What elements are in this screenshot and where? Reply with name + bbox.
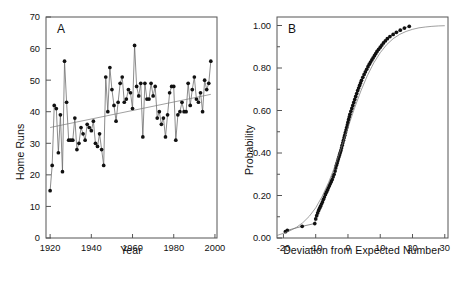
data-point (83, 138, 87, 142)
data-point (184, 110, 188, 114)
data-point (157, 110, 161, 114)
data-point (63, 59, 67, 63)
data-point (141, 135, 145, 139)
y-tick-label: 0.80 (253, 63, 271, 73)
data-point (54, 107, 58, 111)
data-point (118, 81, 122, 85)
data-point (81, 132, 85, 136)
data-point (52, 104, 56, 108)
data-point (98, 132, 102, 136)
data-point (110, 88, 114, 92)
data-point (205, 88, 209, 92)
data-point (164, 135, 168, 139)
data-point (75, 148, 79, 152)
data-point (73, 116, 77, 120)
panel-b: -20-1001020300.000.200.400.600.801.00B (231, 0, 463, 260)
data-point (65, 100, 69, 104)
y-tick-label: 70 (30, 12, 40, 22)
data-point (129, 91, 133, 95)
panel-a-yaxis-title: Home Runs (14, 124, 26, 180)
data-point (106, 110, 110, 114)
y-tick-label: 0.20 (253, 191, 271, 201)
figure-container: 19201940196019802000010203040506070A Yea… (0, 0, 463, 288)
data-point (180, 100, 184, 104)
y-tick-label: 60 (30, 44, 40, 54)
panel-a-xaxis-title: Year (45, 244, 217, 256)
y-tick-label: 10 (30, 202, 40, 212)
data-point (168, 91, 172, 95)
data-point (395, 30, 399, 34)
data-point (104, 75, 108, 79)
data-point (114, 119, 118, 123)
data-point (398, 28, 402, 32)
data-point (57, 151, 61, 155)
data-point (102, 164, 106, 168)
data-point (92, 119, 96, 123)
data-point (151, 94, 155, 98)
data-point (203, 78, 207, 82)
data-point (188, 104, 192, 108)
data-point (201, 110, 205, 114)
data-point (89, 129, 93, 133)
panel-letter: A (57, 22, 65, 36)
data-point (199, 91, 203, 95)
y-tick-label: 0.00 (253, 233, 271, 243)
data-point (166, 113, 170, 117)
data-point (77, 141, 81, 145)
data-point (313, 222, 317, 226)
data-point (120, 75, 124, 79)
data-point (186, 81, 190, 85)
data-point (174, 138, 178, 142)
data-point (116, 100, 120, 104)
plot-frame (46, 17, 217, 238)
y-tick-label: 20 (30, 170, 40, 180)
y-tick-label: 0.60 (253, 106, 271, 116)
data-point (314, 217, 318, 221)
data-point (190, 88, 194, 92)
data-point (332, 172, 336, 176)
data-point (300, 224, 304, 228)
data-point (172, 85, 176, 89)
data-point (100, 148, 104, 152)
data-point (96, 145, 100, 149)
plot-frame (277, 17, 448, 238)
data-point (391, 33, 395, 37)
data-point (139, 81, 143, 85)
data-point (79, 126, 83, 130)
data-point (135, 85, 139, 89)
y-tick-label: 50 (30, 76, 40, 86)
data-point (207, 81, 211, 85)
data-point (149, 81, 153, 85)
data-point (87, 126, 91, 130)
data-point (388, 35, 392, 39)
data-point (127, 88, 131, 92)
data-point (162, 116, 166, 120)
data-point (50, 164, 54, 168)
data-point (209, 59, 213, 63)
data-point (133, 44, 137, 48)
y-tick-label: 40 (30, 107, 40, 117)
data-point (61, 170, 65, 174)
data-point (197, 100, 201, 104)
panel-a: 19201940196019802000010203040506070A (0, 0, 232, 260)
data-point (155, 116, 159, 120)
y-tick-label: 0 (35, 233, 40, 243)
data-point (71, 138, 75, 142)
data-point (85, 122, 89, 126)
data-point (94, 141, 98, 145)
y-tick-label: 1.00 (253, 21, 271, 31)
data-point (137, 94, 141, 98)
data-point (178, 110, 182, 114)
data-point (112, 104, 116, 108)
data-point (403, 26, 407, 30)
panel-b-yaxis-title: Probability (243, 125, 255, 175)
data-point (108, 66, 112, 70)
data-point (59, 113, 63, 117)
data-point (125, 97, 129, 101)
data-point (192, 75, 196, 79)
y-tick-label: 0.40 (253, 148, 271, 158)
series-line-1 (277, 26, 445, 236)
panel-b-xaxis-title: Deviation from Expected Number (262, 244, 462, 256)
data-point (143, 81, 147, 85)
panel-letter: B (288, 22, 296, 36)
